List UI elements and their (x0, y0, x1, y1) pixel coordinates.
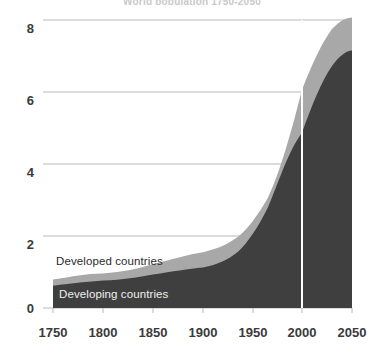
population-area-chart: World population 1750-2050 8 6 4 2 0 175… (0, 0, 384, 351)
xtick-label-2050: 2050 (330, 326, 374, 340)
xtick-label-1950: 1950 (231, 326, 275, 340)
xtick-label-1800: 1800 (81, 326, 125, 340)
ytick-label-6: 6 (8, 94, 34, 107)
ytick-label-4: 4 (8, 166, 34, 179)
ytick-label-8: 8 (8, 22, 34, 35)
xtick-label-1850: 1850 (131, 326, 175, 340)
xtick-label-1750: 1750 (31, 326, 75, 340)
series-label-developed: Developed countries (56, 255, 163, 267)
series-label-developing: Developing countries (59, 288, 168, 300)
ytick-label-0: 0 (8, 302, 34, 315)
xaxis-ticks (53, 308, 352, 313)
plot-canvas (0, 0, 384, 351)
xtick-label-2000: 2000 (280, 326, 324, 340)
ytick-label-2: 2 (8, 238, 34, 251)
xtick-label-1900: 1900 (181, 326, 225, 340)
